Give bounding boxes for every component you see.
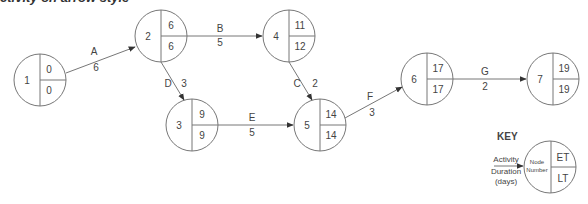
key-node-label: Node [530,159,545,165]
activity-b-name: B [217,23,224,34]
key-et-label: ET [557,152,570,163]
node-number: 3 [176,120,182,131]
activity-f-name: F [367,91,373,102]
activity-e-name: E [249,112,256,123]
node-et: 17 [432,63,444,74]
arrow-a [66,47,135,73]
key-duration-label: Duration [491,167,521,176]
key-number-label: Number [526,167,547,173]
activity-d-duration: 3 [181,78,187,89]
node-et: 19 [558,63,570,74]
key-lt-label: LT [558,173,569,184]
node-number: 4 [273,31,279,42]
node-et: 6 [168,20,174,31]
node-number: 5 [304,120,310,131]
activity-c-name: C [293,78,300,89]
activity-e-duration: 5 [249,127,255,138]
activity-g-duration: 2 [482,81,488,92]
activity-a-name: A [91,46,98,57]
node-et: 14 [325,109,337,120]
node-number: 1 [24,75,30,86]
node-number: 6 [411,74,417,85]
key-days-label: (days) [495,177,518,186]
network-diagram: A 6 B 5 C 2 D 3 E 5 F 3 G 2 1 0 0 2 6 6 … [0,0,588,204]
node-lt: 12 [294,41,306,52]
node-lt: 17 [432,84,444,95]
key-activity-label: Activity [493,155,518,164]
node-lt: 19 [558,84,570,95]
node-lt: 0 [46,85,52,96]
node-lt: 9 [199,130,205,141]
node-lt: 14 [325,130,337,141]
activity-a-duration: 6 [93,62,99,73]
activity-f-duration: 3 [369,107,375,118]
node-number: 2 [145,31,151,42]
node-et: 0 [46,64,52,75]
key-legend: KEY Activity Duration (days) Node Number… [491,131,576,193]
activity-d-name: D [164,78,171,89]
key-heading: KEY [497,131,518,142]
activity-b-duration: 5 [217,37,223,48]
node-lt: 6 [168,41,174,52]
node-number: 7 [537,74,543,85]
activity-c-duration: 2 [312,78,318,89]
node-et: 9 [199,109,205,120]
activity-g-name: G [481,66,489,77]
node-et: 11 [295,20,306,31]
